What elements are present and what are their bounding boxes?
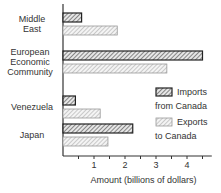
legend-swatch-exports [156,118,172,126]
x-tick-label: 1 [91,160,96,170]
x-axis-title: Amount (billions of dollars) [91,175,197,185]
legend-label: Imports [177,87,208,97]
bar-exports [63,64,167,73]
bar-imports [63,96,75,105]
category-label: European [10,47,49,57]
category-label: Japan [20,130,45,140]
category-label: East [23,24,42,34]
legend-swatch-imports [156,88,172,96]
bar-imports [63,51,203,60]
x-tick-label: 4 [184,160,189,170]
bar-exports [63,26,117,35]
category-label: Middle [19,14,46,24]
category-label: Community [7,67,53,77]
bar-exports [63,137,108,146]
legend-label: to Canada [155,131,197,141]
bar-imports [63,124,133,133]
legend-label: from Canada [155,101,207,111]
legend-label: Exports [177,117,208,127]
bar-chart: 1234Amount (billions of dollars)MiddleEa… [0,0,221,193]
bar-exports [63,109,100,118]
x-tick-label: 2 [122,160,127,170]
bar-imports [63,13,82,22]
category-label: Economic [10,57,50,67]
x-tick-label: 3 [153,160,158,170]
category-label: Venezuela [11,102,53,112]
